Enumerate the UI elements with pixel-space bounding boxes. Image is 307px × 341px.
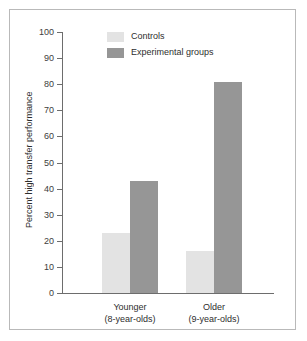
y-tick-mark <box>57 267 62 268</box>
bar <box>186 251 214 293</box>
y-tick-label: 30 <box>44 210 54 219</box>
bar <box>130 181 158 293</box>
bar <box>102 233 130 293</box>
y-tick-label: 50 <box>44 158 54 167</box>
chart-figure: Percent high transfer performance Contro… <box>9 9 296 330</box>
x-axis-line <box>62 293 274 294</box>
y-tick-label: 20 <box>44 236 54 245</box>
y-tick-label: 70 <box>44 106 54 115</box>
y-axis-line <box>62 32 63 293</box>
y-tick-label: 90 <box>44 54 54 63</box>
x-axis-label: Older(9-year-olds) <box>164 301 264 325</box>
y-tick-label: 10 <box>44 262 54 271</box>
y-tick-mark <box>57 189 62 190</box>
y-tick-mark <box>57 136 62 137</box>
y-tick-mark <box>57 32 62 33</box>
x-axis-label-line2: (9-year-olds) <box>164 313 264 325</box>
y-tick-label: 40 <box>44 184 54 193</box>
y-tick-mark <box>57 58 62 59</box>
y-tick-mark <box>57 84 62 85</box>
y-tick-mark <box>57 241 62 242</box>
y-axis-title: Percent high transfer performance <box>22 60 36 260</box>
plot-area: 0102030405060708090100 Younger(8-year-ol… <box>62 32 274 293</box>
y-tick-mark <box>57 215 62 216</box>
y-tick-mark <box>57 110 62 111</box>
bar <box>214 82 242 293</box>
y-tick-mark <box>57 163 62 164</box>
x-axis-label-line1: Younger <box>113 302 146 312</box>
y-tick-label: 60 <box>44 132 54 141</box>
y-tick-label: 80 <box>44 80 54 89</box>
x-axis-label-line1: Older <box>203 302 225 312</box>
y-tick-label: 100 <box>39 28 54 37</box>
y-tick-mark <box>57 293 62 294</box>
y-tick-label: 0 <box>49 289 54 298</box>
